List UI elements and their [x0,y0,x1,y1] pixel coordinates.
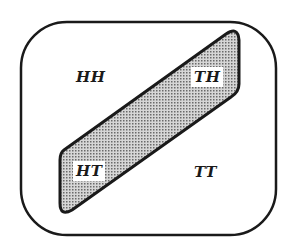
outcome-label-th: TH [191,67,223,87]
sample-space-diagram [0,0,288,249]
outcome-label-tt: TT [194,163,217,181]
outcome-label-hh: HH [76,68,105,86]
outcome-label-ht: HT [73,161,105,181]
